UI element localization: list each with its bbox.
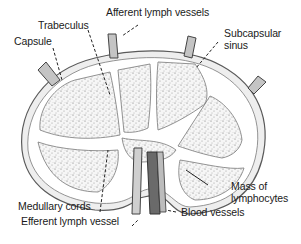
label-afferent-lymph-vessels: Afferent lymph vessels — [106, 6, 209, 18]
label-trabeculus: Trabeculus — [38, 19, 89, 31]
label-blood-vessels: Blood vessels — [181, 206, 244, 218]
label-efferent-lymph-vessel: Efferent lymph vessel — [21, 215, 119, 227]
label-mass-2: lymphocytes — [231, 192, 288, 204]
label-medullary-cords: Medullary cords — [18, 200, 91, 212]
hilum-vessels — [132, 148, 166, 214]
label-mass-1: Mass of — [231, 180, 267, 192]
label-capsule: Capsule — [14, 35, 52, 47]
label-subcapsular-2: sinus — [224, 39, 248, 51]
label-subcapsular-1: Subcapsular — [224, 27, 281, 39]
